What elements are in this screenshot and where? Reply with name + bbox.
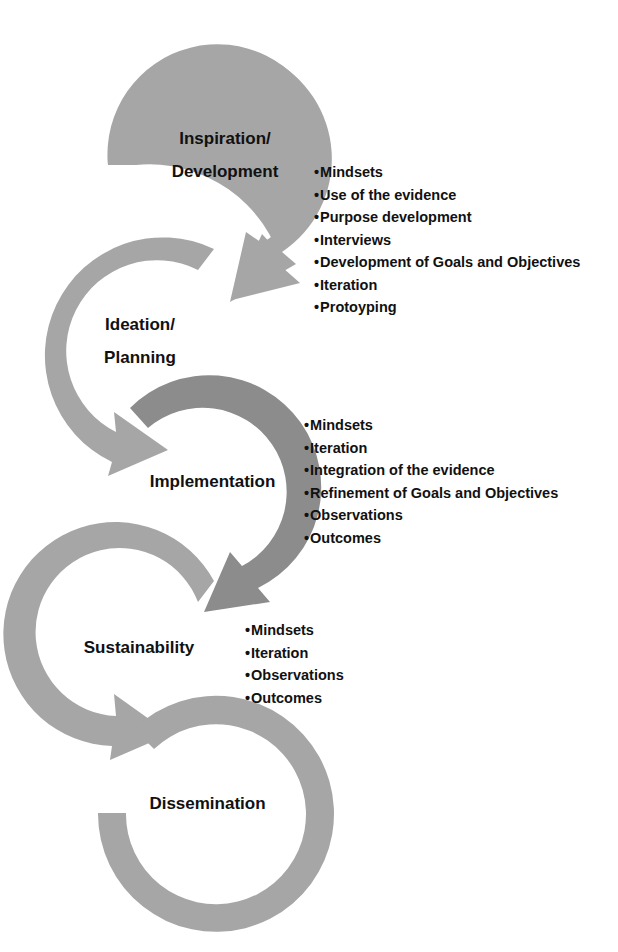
stage-label-ideation: Ideation/ Planning bbox=[80, 308, 200, 374]
bullet-item: Development of Goals and Objectives bbox=[314, 251, 580, 274]
ideation-label-line2: Planning bbox=[80, 341, 200, 374]
implementation-label: Implementation bbox=[140, 465, 285, 498]
inspiration-label-line2: Development bbox=[160, 155, 290, 188]
bullet-item: Outcomes bbox=[304, 527, 558, 550]
sustainability-bullet-list: Mindsets Iteration Observations Outcomes bbox=[245, 619, 344, 709]
bullet-item: Use of the evidence bbox=[314, 184, 580, 207]
stage-label-dissemination: Dissemination bbox=[140, 787, 275, 820]
bullet-item: Refinement of Goals and Objectives bbox=[304, 482, 558, 505]
bullet-item: Iteration bbox=[245, 642, 344, 665]
bullet-item: Mindsets bbox=[314, 161, 580, 184]
bullet-item: Protoyping bbox=[314, 296, 580, 319]
bullet-item: Interviews bbox=[314, 229, 580, 252]
bullet-item: Purpose development bbox=[314, 206, 580, 229]
inspiration-bullet-list: Mindsets Use of the evidence Purpose dev… bbox=[314, 161, 580, 319]
bullet-item: Iteration bbox=[304, 437, 558, 460]
stage-label-sustainability: Sustainability bbox=[74, 631, 204, 664]
stage-label-inspiration: Inspiration/ Development bbox=[160, 122, 290, 188]
bullet-item: Outcomes bbox=[245, 687, 344, 710]
bullet-item: Mindsets bbox=[304, 414, 558, 437]
sustainability-label: Sustainability bbox=[74, 631, 204, 664]
inspiration-label-line1: Inspiration/ bbox=[160, 122, 290, 155]
implementation-bullet-list: Mindsets Iteration Integration of the ev… bbox=[304, 414, 558, 549]
bullet-item: Iteration bbox=[314, 274, 580, 297]
ideation-label-line1: Ideation/ bbox=[80, 308, 200, 341]
dissemination-label: Dissemination bbox=[140, 787, 275, 820]
bullet-item: Observations bbox=[245, 664, 344, 687]
stage-label-implementation: Implementation bbox=[140, 465, 285, 498]
bullet-item: Integration of the evidence bbox=[304, 459, 558, 482]
bullet-item: Observations bbox=[304, 504, 558, 527]
bullet-item: Mindsets bbox=[245, 619, 344, 642]
